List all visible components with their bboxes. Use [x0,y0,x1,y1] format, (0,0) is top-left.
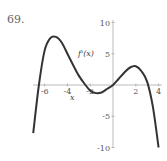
svg-text:-10: -10 [97,144,110,153]
svg-text:-5: -5 [102,112,110,121]
curve-label: f'(x) [77,49,94,58]
x-axis-label: x [70,93,75,102]
svg-text:4: 4 [156,87,161,96]
svg-text:-6: -6 [41,87,49,96]
f-prime-curve [33,36,158,147]
svg-text:5: 5 [105,50,110,59]
svg-text:10: 10 [100,19,110,28]
svg-text:2: 2 [133,87,138,96]
derivative-graph: -6-4-224105-5-10 f'(x) x [0,0,167,161]
